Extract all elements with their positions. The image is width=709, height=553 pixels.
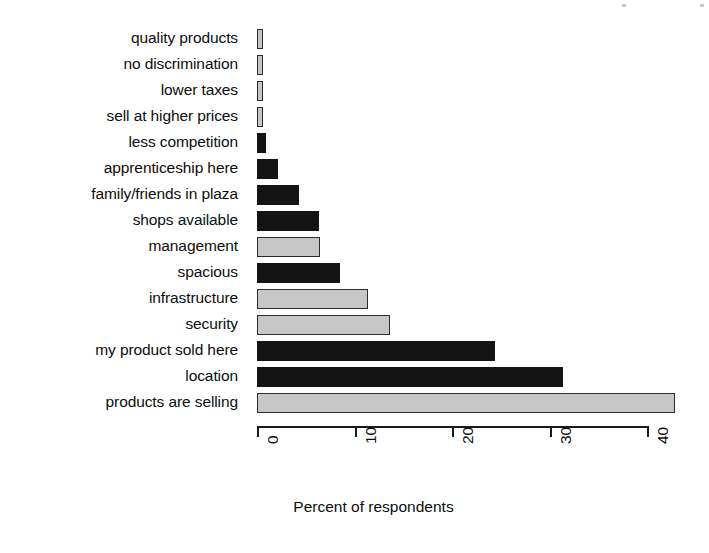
category-label: location [0, 366, 238, 392]
bar-row [257, 288, 697, 314]
category-label: infrastructure [0, 288, 238, 314]
x-axis-tick [647, 426, 649, 437]
x-axis-tick-label: 10 [362, 427, 380, 444]
bar-chart: quality productsno discriminationlower t… [0, 0, 709, 553]
category-label: less competition [0, 132, 238, 158]
x-axis-tick [452, 426, 454, 437]
bar-row [257, 184, 697, 210]
bar-row [257, 80, 697, 106]
category-label: family/friends in plaza [0, 184, 238, 210]
bar [257, 29, 263, 49]
bar [257, 211, 319, 231]
bar [257, 367, 563, 387]
plot-area [257, 28, 697, 414]
bar-row [257, 392, 697, 418]
x-axis-tick [550, 426, 552, 437]
bar [257, 263, 340, 283]
scan-artifact [700, 4, 704, 7]
x-axis-tick [355, 426, 357, 437]
x-axis-tick-label: 30 [557, 427, 575, 444]
x-axis-tick-label: 20 [459, 427, 477, 444]
bar [257, 315, 390, 335]
category-label: spacious [0, 262, 238, 288]
bar [257, 289, 368, 309]
x-axis-title: Percent of respondents [0, 498, 709, 516]
bar-row [257, 210, 697, 236]
bar-row [257, 236, 697, 262]
x-axis-tick [257, 426, 259, 437]
x-axis-title-text: Percent of respondents [293, 498, 453, 516]
bar [257, 133, 266, 153]
bar-row [257, 158, 697, 184]
bar [257, 393, 675, 413]
bar-row [257, 106, 697, 132]
bar [257, 81, 263, 101]
category-label: products are selling [0, 392, 238, 418]
bar-row [257, 366, 697, 392]
scan-artifact [622, 4, 626, 7]
bar [257, 55, 263, 75]
category-axis-labels: quality productsno discriminationlower t… [0, 28, 238, 418]
bar [257, 107, 263, 127]
category-label: sell at higher prices [0, 106, 238, 132]
category-label: management [0, 236, 238, 262]
bar-row [257, 132, 697, 158]
x-axis-tick-label: 0 [264, 435, 282, 444]
x-axis-tick-label: 40 [654, 427, 672, 444]
category-label: my product sold here [0, 340, 238, 366]
bar [257, 159, 278, 179]
bar-row [257, 28, 697, 54]
category-label: shops available [0, 210, 238, 236]
bar-row [257, 54, 697, 80]
bar [257, 237, 320, 257]
category-label: quality products [0, 28, 238, 54]
bar [257, 185, 299, 205]
category-label: no discrimination [0, 54, 238, 80]
bar-row [257, 314, 697, 340]
bar-row [257, 340, 697, 366]
x-axis: 010203040 [257, 426, 649, 427]
category-label: security [0, 314, 238, 340]
bar-row [257, 262, 697, 288]
category-label: lower taxes [0, 80, 238, 106]
bar [257, 341, 495, 361]
category-label: apprenticeship here [0, 158, 238, 184]
